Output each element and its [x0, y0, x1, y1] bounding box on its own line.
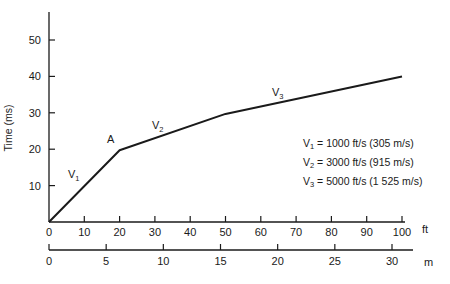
x-tick-label-m: 0 [46, 255, 52, 267]
x-tick-label-ft: 10 [78, 226, 90, 238]
x-tick-label-ft: 60 [255, 226, 267, 238]
y-tick-label: 50 [29, 34, 41, 46]
x-tick-label-ft: 30 [149, 226, 161, 238]
x-tick-label-ft: 0 [46, 226, 52, 238]
x-tick-label-ft: 40 [184, 226, 196, 238]
x-tick-label-m: 30 [386, 255, 398, 267]
x-tick-label-ft: 70 [290, 226, 302, 238]
label-v1: V1 [68, 168, 80, 183]
y-axis-title: Time (ms) [2, 105, 14, 152]
x-unit-ft: ft [422, 223, 428, 235]
y-tick-label: 20 [29, 143, 41, 155]
x-ticks-m: 051015202530 [46, 244, 398, 267]
label-point-a: A [107, 133, 115, 145]
x-tick-label-m: 15 [214, 255, 226, 267]
y-tick-label: 40 [29, 70, 41, 82]
y-tick-label: 10 [29, 180, 41, 192]
y-ticks: 1020304050 [29, 34, 55, 192]
y-tick-label: 30 [29, 107, 41, 119]
x-unit-m: m [424, 256, 433, 268]
label-v2: V2 [152, 119, 164, 134]
x-tick-label-ft: 80 [325, 226, 337, 238]
x-tick-label-m: 25 [329, 255, 341, 267]
legend-item-v2: V2 = 3000 ft/s (915 m/s) [303, 156, 414, 172]
legend-item-v1: V1 = 1000 ft/s (305 m/s) [303, 137, 414, 153]
label-v3: V3 [272, 86, 284, 101]
legend-item-v3: V3 = 5000 ft/s (1 525 m/s) [303, 175, 422, 191]
x-tick-label-ft: 50 [219, 226, 231, 238]
x-tick-label-m: 10 [157, 255, 169, 267]
x-tick-label-m: 20 [272, 255, 284, 267]
x-tick-label-ft: 90 [361, 226, 373, 238]
x-ticks-ft: 0102030405060708090100 [46, 216, 411, 238]
x-tick-label-m: 5 [103, 255, 109, 267]
x-tick-label-ft: 100 [393, 226, 411, 238]
x-tick-label-ft: 20 [113, 226, 125, 238]
